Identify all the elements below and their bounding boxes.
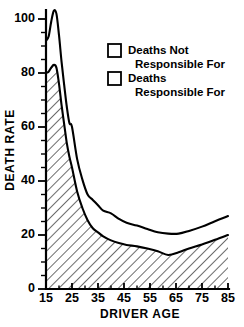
- y-tick-label-80: 80: [21, 65, 35, 79]
- y-tick-label-60: 60: [21, 119, 35, 133]
- y-axis-ticks: [38, 19, 46, 289]
- y-axis-tick-labels: 020406080100: [14, 11, 35, 295]
- x-tick-label-55: 55: [143, 291, 157, 305]
- x-tick-label-35: 35: [91, 291, 105, 305]
- legend-swatch-deaths-not-responsible: [108, 44, 121, 57]
- chart-figure: 020406080100 1525354555657585 DEATH RATE…: [0, 0, 244, 327]
- x-tick-label-25: 25: [65, 291, 79, 305]
- chart-svg: 020406080100 1525354555657585 DEATH RATE…: [0, 0, 244, 327]
- x-tick-label-65: 65: [169, 291, 183, 305]
- legend-label-responsible-line2: Responsible For: [135, 86, 226, 98]
- x-tick-label-85: 85: [221, 291, 235, 305]
- legend-swatch-deaths-responsible: [108, 72, 121, 85]
- x-tick-label-15: 15: [39, 291, 53, 305]
- y-tick-label-40: 40: [21, 173, 35, 187]
- x-axis-title: DRIVER AGE: [100, 307, 180, 321]
- legend-label-responsible-line1: Deaths: [128, 72, 166, 84]
- y-tick-label-0: 0: [28, 281, 35, 295]
- x-tick-label-45: 45: [117, 291, 131, 305]
- y-tick-label-20: 20: [21, 227, 35, 241]
- chart-legend: Deaths Not Responsible For Deaths Respon…: [108, 44, 226, 98]
- x-tick-label-75: 75: [195, 291, 209, 305]
- y-tick-label-100: 100: [14, 11, 35, 25]
- x-axis-tick-labels: 1525354555657585: [39, 291, 235, 305]
- legend-label-not-responsible-line2: Responsible For: [135, 58, 226, 70]
- y-axis-title: DEATH RATE: [3, 109, 17, 191]
- legend-label-not-responsible-line1: Deaths Not: [128, 44, 189, 56]
